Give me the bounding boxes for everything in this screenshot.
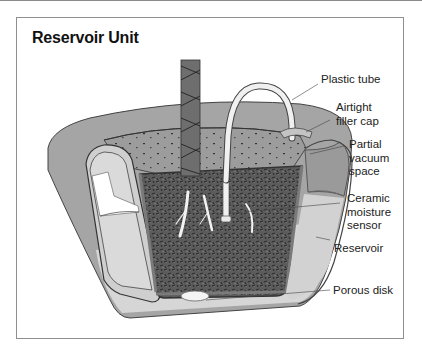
label-line: Airtight <box>336 101 379 115</box>
label-plastic-tube: Plastic tube <box>321 73 380 87</box>
label-line: filler cap <box>336 115 379 129</box>
label-line: moisture <box>347 206 391 220</box>
label-partial-vacuum-space: Partial vacuum space <box>349 138 389 179</box>
label-ceramic-moisture-sensor: Ceramic moisture sensor <box>347 192 391 233</box>
porous-disk-shape <box>181 291 209 301</box>
inner-pot <box>140 166 302 298</box>
label-line: Ceramic <box>347 192 391 206</box>
label-reservoir: Reservoir <box>334 242 383 256</box>
label-porous-disk: Porous disk <box>333 284 393 298</box>
label-line: sensor <box>347 219 391 233</box>
plant-stem <box>181 60 200 176</box>
label-line: space <box>349 165 389 179</box>
label-airtight-filler-cap: Airtight filler cap <box>336 101 379 128</box>
label-line: vacuum <box>349 152 389 166</box>
label-line: Partial <box>349 138 389 152</box>
